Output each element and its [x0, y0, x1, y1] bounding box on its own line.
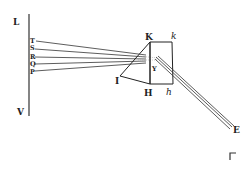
label-E: E	[233, 125, 240, 135]
label-P: P	[30, 68, 35, 76]
label-I: I	[115, 76, 119, 86]
label-k: k	[171, 31, 176, 41]
label-S: S	[30, 44, 35, 52]
label-Q: Q	[30, 60, 36, 68]
incident-rays	[35, 41, 146, 71]
label-V: V	[16, 107, 25, 117]
optics-diagram: L T S R Q P V K k Y I H h E	[0, 0, 244, 169]
label-Y: Y	[151, 65, 157, 73]
label-L: L	[13, 17, 20, 27]
label-H: H	[144, 88, 153, 98]
label-h: h	[166, 87, 172, 97]
label-K: K	[145, 32, 154, 42]
corner-mark	[230, 153, 236, 160]
